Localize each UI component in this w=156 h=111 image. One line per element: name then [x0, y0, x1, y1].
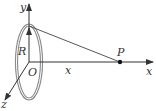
current-loop-diagram: y R O x P x z	[0, 0, 156, 111]
radius-label: R	[17, 45, 26, 58]
distance-label: x	[65, 64, 72, 77]
origin-label: O	[28, 66, 37, 79]
z-axis-label: z	[0, 98, 7, 111]
point-label: P	[116, 46, 125, 59]
point-p	[118, 60, 122, 64]
x-axis-label: x	[146, 65, 153, 78]
y-axis-label: y	[19, 1, 27, 14]
